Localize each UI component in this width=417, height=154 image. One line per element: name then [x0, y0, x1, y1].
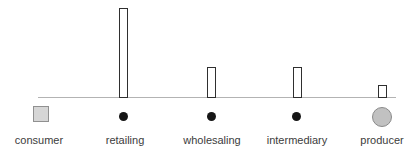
- wholesaling-dot-marker: [207, 112, 216, 121]
- label-producer: producer: [360, 134, 403, 146]
- bar-retailing: [119, 8, 128, 98]
- retailing-dot-marker: [119, 112, 128, 121]
- label-intermediary: intermediary: [267, 134, 328, 146]
- consumer-square-marker: [33, 106, 49, 122]
- label-wholesaling: wholesaling: [183, 134, 240, 146]
- label-consumer: consumer: [15, 134, 63, 146]
- bar-wholesaling: [207, 67, 216, 98]
- intermediary-dot-marker: [292, 112, 301, 121]
- bar-producer: [378, 85, 387, 98]
- baseline: [38, 97, 396, 98]
- bar-intermediary: [293, 67, 302, 98]
- label-retailing: retailing: [106, 134, 145, 146]
- producer-circle-marker: [372, 107, 392, 127]
- channel-diagram: consumer retailing wholesaling intermedi…: [0, 0, 417, 154]
